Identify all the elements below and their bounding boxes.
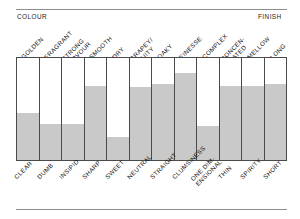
bottom-divider-rule (16, 209, 287, 210)
chart-column (242, 58, 265, 160)
column-fill (152, 84, 174, 161)
chart-column (130, 58, 153, 160)
column-fill (62, 124, 84, 160)
bottom-label-1: CLEAR (14, 160, 34, 180)
column-fill (107, 137, 129, 160)
column-fill (40, 124, 62, 160)
bottom-label-12: SHORT (262, 159, 283, 180)
tasting-profile-chart: COLOUR FINISH GOLDENFRAGRANTSTRONG FLAVO… (0, 0, 300, 219)
bottom-label-2: DUMB (36, 162, 55, 181)
chart-column (220, 58, 243, 160)
column-fill (17, 113, 39, 160)
bottom-label-3: INSIPID (59, 158, 81, 180)
column-fill (175, 73, 197, 160)
chart-column (85, 58, 108, 160)
chart-column (152, 58, 175, 160)
chart-column (265, 58, 287, 160)
colour-caption: COLOUR (17, 13, 47, 20)
chart-column (62, 58, 85, 160)
column-fill (220, 86, 242, 160)
chart-column (40, 58, 63, 160)
column-fill (85, 86, 107, 160)
bottom-label-10: THIN (217, 165, 233, 181)
bottom-label-5: SWEET (104, 159, 125, 180)
top-divider-rule (16, 9, 287, 10)
column-fill (130, 87, 152, 160)
plot-area (16, 57, 287, 161)
column-fill (242, 86, 264, 160)
column-fill (265, 84, 287, 161)
chart-column (17, 58, 40, 160)
bottom-label-4: SHARP (81, 160, 102, 181)
chart-column (107, 58, 130, 160)
finish-caption: FINISH (258, 13, 282, 20)
chart-column (175, 58, 198, 160)
